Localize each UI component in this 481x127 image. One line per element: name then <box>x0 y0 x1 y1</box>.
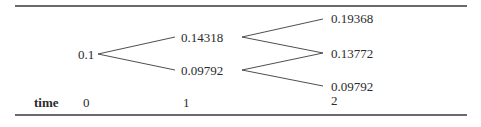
edge-t1down-mid <box>242 53 323 70</box>
node-t2-up: 0.19368 <box>331 12 373 25</box>
edge-t1up-up <box>242 19 323 37</box>
time-tick-1: 1 <box>183 96 190 109</box>
node-t1-down: 0.09792 <box>181 64 223 77</box>
time-tick-2: 2 <box>331 94 338 107</box>
edge-t1up-mid <box>242 37 323 53</box>
time-tick-0: 0 <box>83 96 90 109</box>
edge-t0-up <box>98 37 175 54</box>
node-t1-up: 0.14318 <box>181 31 223 44</box>
edge-t1down-down <box>242 70 323 86</box>
node-t2-down: 0.09792 <box>331 80 373 93</box>
time-axis-label: time <box>34 96 59 109</box>
node-t0: 0.1 <box>78 48 94 61</box>
node-t2-mid: 0.13772 <box>331 47 373 60</box>
tree-edges <box>0 0 481 127</box>
bottom-rule <box>15 114 467 116</box>
edge-t0-down <box>98 54 175 70</box>
